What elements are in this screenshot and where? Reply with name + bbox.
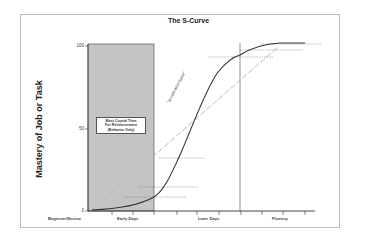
y-axis-label: Mastery of Job or Task [34,69,44,189]
x-label-fluency: Fluency [272,216,288,221]
chart-plot [0,0,377,243]
reinforcement-note-box: Most Crucial Time For Reinforcement (Beh… [96,117,146,134]
x-label-early-days: Early Days [117,216,138,221]
x-label-beginner: Beginner/Novice [48,216,81,221]
x-label-later-days: Later Days [198,216,219,221]
y-tick-50: 50 [70,126,84,131]
y-tick-0: 0 [70,208,84,213]
note-line-3: (Behavior Only) [97,128,145,132]
y-tick-100: 100 [70,43,84,48]
x-axis-ticks [112,211,305,215]
